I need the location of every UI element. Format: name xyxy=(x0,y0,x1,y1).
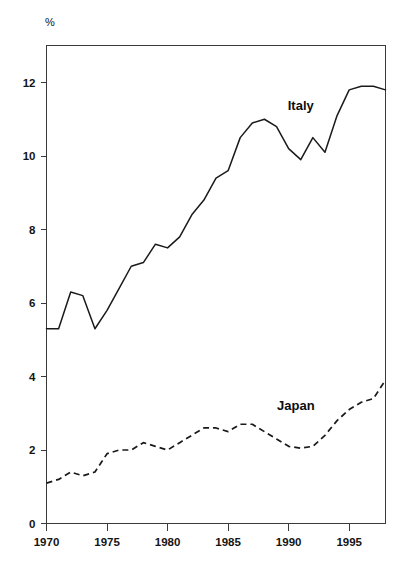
y-tick-label: 4 xyxy=(29,371,36,383)
x-tick-label: 1995 xyxy=(336,536,362,548)
data-series-group xyxy=(47,86,386,483)
x-tick-label: 1980 xyxy=(155,536,181,548)
x-tick-label: 1985 xyxy=(215,536,241,548)
x-axis-ticks: 197019751980198519901995 xyxy=(34,524,363,548)
plot-frame xyxy=(47,46,386,524)
x-tick-label: 1975 xyxy=(94,536,120,548)
y-tick-label: 0 xyxy=(29,518,35,530)
x-tick-label: 1970 xyxy=(34,536,60,548)
series-label-japan: Japan xyxy=(277,398,315,413)
y-tick-label: 12 xyxy=(23,77,36,89)
series-line-japan xyxy=(47,380,386,483)
x-tick-label: 1990 xyxy=(276,536,302,548)
y-axis-unit-label: % xyxy=(45,16,55,28)
y-axis-ticks: 024681012 xyxy=(23,77,47,530)
chart-container: 024681012 197019751980198519901995 Italy… xyxy=(0,0,404,573)
axis-frame xyxy=(47,46,386,524)
y-tick-label: 2 xyxy=(29,444,35,456)
line-chart: 024681012 197019751980198519901995 Italy… xyxy=(0,0,404,573)
series-label-italy: Italy xyxy=(288,98,315,113)
y-tick-label: 10 xyxy=(23,150,36,162)
y-tick-label: 8 xyxy=(29,224,36,236)
y-tick-label: 6 xyxy=(29,297,35,309)
series-line-italy xyxy=(47,86,386,329)
